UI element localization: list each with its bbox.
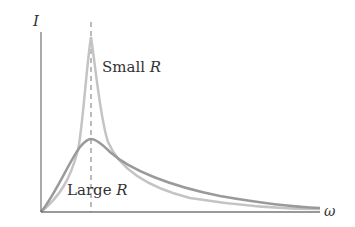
resonance-chart: I ω Small R Large R (0, 0, 355, 227)
small-r-label: Small R (102, 58, 161, 76)
y-axis-label: I (32, 12, 40, 30)
x-axis-label: ω (324, 203, 336, 219)
large-r-curve (41, 139, 320, 212)
large-r-label: Large R (67, 181, 128, 199)
